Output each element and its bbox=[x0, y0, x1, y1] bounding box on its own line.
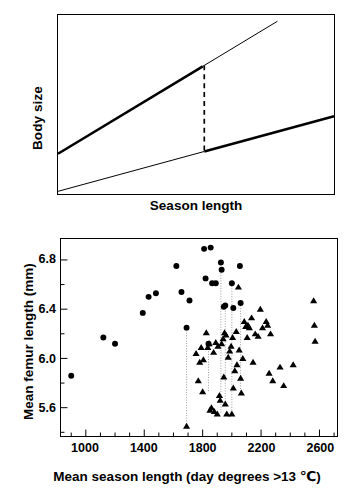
data-point-circle bbox=[238, 300, 244, 306]
shallow-line-thick-segment bbox=[204, 116, 334, 151]
data-point-circle bbox=[229, 280, 235, 286]
data-point-triangle bbox=[311, 322, 318, 328]
data-point-triangle bbox=[241, 318, 248, 324]
shallow-line-thin-segment bbox=[58, 151, 204, 191]
data-point-triangle bbox=[231, 367, 238, 373]
data-point-circle bbox=[219, 267, 225, 273]
data-point-circle bbox=[203, 275, 209, 281]
data-point-circle bbox=[184, 325, 190, 331]
y-tick-label: 6.4 bbox=[22, 302, 56, 316]
data-point-circle bbox=[201, 246, 207, 252]
data-point-triangle bbox=[195, 377, 202, 383]
axis-ticks-group bbox=[61, 260, 334, 436]
data-point-triangle bbox=[216, 392, 223, 398]
data-point-triangle bbox=[200, 356, 207, 362]
data-point-triangle bbox=[267, 330, 274, 336]
data-point-circle bbox=[112, 341, 118, 347]
data-point-triangle bbox=[290, 361, 297, 367]
steep-line-thin-segment bbox=[203, 21, 278, 66]
y-tick-label: 6.0 bbox=[22, 352, 56, 366]
schematic-x-axis-label: Season length bbox=[57, 198, 335, 213]
data-point-triangle bbox=[248, 314, 255, 320]
data-point-triangle bbox=[199, 388, 206, 394]
data-point-triangle bbox=[266, 370, 273, 376]
scatter-plot-panel bbox=[60, 238, 338, 437]
y-tick-label: 6.8 bbox=[22, 252, 56, 266]
x-tick-label: 2600 bbox=[306, 441, 334, 455]
data-point-triangle bbox=[233, 361, 240, 367]
data-point-triangle bbox=[233, 328, 240, 334]
data-point-circle bbox=[146, 294, 152, 300]
data-point-triangle bbox=[280, 382, 287, 388]
data-point-triangle bbox=[276, 364, 283, 370]
data-point-circle bbox=[68, 373, 74, 379]
data-point-circle bbox=[187, 298, 193, 304]
data-point-triangle bbox=[269, 377, 276, 383]
data-point-circle bbox=[208, 245, 214, 251]
data-point-triangle bbox=[203, 329, 210, 335]
scatter-plot-area bbox=[61, 239, 337, 436]
data-point-triangle bbox=[236, 346, 243, 352]
data-point-circle bbox=[230, 305, 236, 311]
data-point-triangle bbox=[249, 359, 256, 365]
data-points-group bbox=[68, 245, 318, 429]
data-point-triangle bbox=[263, 318, 270, 324]
data-point-triangle bbox=[238, 390, 245, 396]
steep-line-thick-segment bbox=[58, 66, 203, 153]
data-point-circle bbox=[100, 335, 106, 341]
data-point-triangle bbox=[244, 334, 251, 340]
data-point-circle bbox=[153, 290, 159, 296]
x-tick-label: 1400 bbox=[130, 441, 158, 455]
data-point-circle bbox=[222, 303, 228, 309]
x-tick-label: 1000 bbox=[71, 441, 99, 455]
data-point-circle bbox=[218, 259, 224, 265]
data-point-circle bbox=[213, 280, 219, 286]
x-tick-label: 2200 bbox=[248, 441, 276, 455]
schematic-plot-area bbox=[58, 15, 334, 194]
data-point-triangle bbox=[183, 423, 190, 429]
figure-root: Body size Season length Mean femur lengt… bbox=[0, 0, 354, 495]
data-point-triangle bbox=[310, 297, 317, 303]
data-point-triangle bbox=[193, 350, 200, 356]
data-point-triangle bbox=[237, 375, 244, 381]
data-point-triangle bbox=[198, 344, 205, 350]
data-point-circle bbox=[237, 263, 243, 269]
y-tick-label: 5.6 bbox=[22, 401, 56, 415]
schematic-panel bbox=[57, 14, 335, 195]
data-point-circle bbox=[178, 289, 184, 295]
data-point-triangle bbox=[229, 334, 236, 340]
scatter-x-axis-label: Mean season length (day degrees >13 ℃) bbox=[20, 468, 354, 484]
data-point-circle bbox=[140, 310, 146, 316]
data-point-circle bbox=[173, 263, 179, 269]
x-tick-label: 1800 bbox=[189, 441, 217, 455]
data-point-triangle bbox=[228, 343, 235, 349]
data-point-triangle bbox=[312, 338, 319, 344]
data-point-triangle bbox=[228, 410, 235, 416]
data-point-triangle bbox=[235, 284, 242, 290]
schematic-y-axis-label: Body size bbox=[30, 20, 45, 150]
data-point-triangle bbox=[257, 306, 264, 312]
scatter-y-axis-label: Mean femur length (mm) bbox=[21, 263, 36, 420]
data-point-triangle bbox=[230, 385, 237, 391]
